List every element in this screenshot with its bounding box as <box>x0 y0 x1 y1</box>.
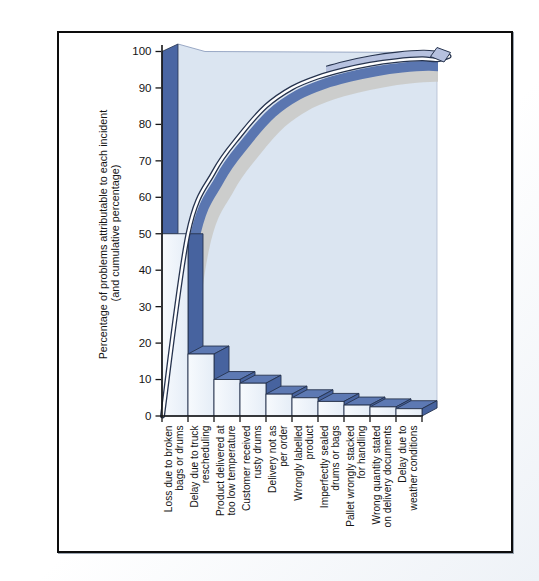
y-axis-title: Percentage of problems attributable to e… <box>97 107 121 360</box>
category-label-line: Customer received <box>241 425 252 511</box>
y-tick-label: 40 <box>139 264 152 276</box>
category-label: Customer receivedrusty drums <box>241 425 263 511</box>
bar-front-face <box>396 409 422 416</box>
y-tick-label: 0 <box>145 410 151 422</box>
category-label-line: product <box>304 425 315 459</box>
plot-panel-top-edge <box>178 44 437 53</box>
chart-body: 0102030405060708090100Loss due to broken… <box>132 44 450 527</box>
category-label: Loss due to brokenbags or drums <box>163 426 185 513</box>
category-label: Product delivered attoo low temperature <box>215 425 237 516</box>
y-tick-label: 30 <box>139 301 152 313</box>
category-label-line: Delay due to <box>397 425 408 483</box>
category-label-line: per order <box>278 425 289 467</box>
y-tick-label: 50 <box>139 228 152 240</box>
category-label-line: for handling <box>356 425 367 479</box>
y-tick-label: 20 <box>139 337 152 349</box>
category-label-line: rescheduling <box>200 425 211 483</box>
y-tick-label: 70 <box>139 155 152 167</box>
pareto-chart: 0102030405060708090100Loss due to broken… <box>0 0 539 581</box>
left-wall-stripe <box>162 44 178 234</box>
y-axis-title-line2: (and cumulative percentage) <box>109 165 121 302</box>
bar-front-face <box>240 383 266 416</box>
y-tick-label: 60 <box>139 191 152 203</box>
category-label: Delay due to truckrescheduling <box>189 425 211 508</box>
category-label: Delay due toweather conditions <box>397 425 419 511</box>
y-tick-label: 80 <box>139 118 152 130</box>
bar-front-face <box>344 405 370 416</box>
bar-front-face <box>318 401 344 416</box>
category-label-line: drums or bags <box>330 426 341 491</box>
bar-front-face <box>214 380 240 416</box>
category-label-line: rusty drums <box>252 426 263 479</box>
category-label-line: Imperfectly sealed <box>319 425 330 508</box>
y-tick-label: 90 <box>139 82 152 94</box>
bar-front-face <box>188 354 214 416</box>
category-label-line: weather conditions <box>408 426 419 512</box>
scanned-page: 0102030405060708090100Loss due to broken… <box>0 0 539 581</box>
category-label-line: on delivery documents <box>382 426 393 528</box>
y-tick-label: 100 <box>132 45 151 57</box>
bar-front-face <box>266 394 292 416</box>
category-label-line: Wrongly labelled <box>293 425 304 500</box>
category-label: Pallet wrongly stackedfor handling <box>345 425 367 527</box>
bar-front-face <box>292 398 318 416</box>
category-label: Wrongly labelledproduct <box>293 425 315 500</box>
y-axis-title-line1: Percentage of problems attributable to e… <box>97 110 109 360</box>
category-label-line: Pallet wrongly stacked <box>345 425 356 527</box>
category-label: Delivery not asper order <box>267 425 289 493</box>
category-label: Wrong quantity statedon delivery documen… <box>371 425 393 527</box>
category-label-line: Delay due to truck <box>189 425 200 508</box>
category-label-line: Product delivered at <box>215 425 226 516</box>
category-label-line: too low temperature <box>226 425 237 515</box>
category-label-line: Delivery not as <box>267 426 278 493</box>
category-label-line: Loss due to broken <box>163 426 174 513</box>
category-label-line: bags or drums <box>174 426 185 491</box>
bar-front-face <box>370 407 396 416</box>
category-label: Imperfectly sealeddrums or bags <box>319 425 341 508</box>
category-label-line: Wrong quantity stated <box>371 425 382 524</box>
y-tick-label: 10 <box>139 373 152 385</box>
